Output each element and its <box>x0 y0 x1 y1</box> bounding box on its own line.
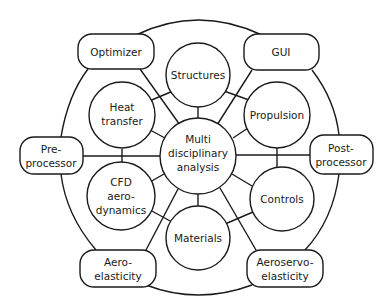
label-postprocessor-2: processor <box>315 156 367 168</box>
label-materials: Materials <box>174 232 222 244</box>
label-heat-1: Heat <box>110 101 135 113</box>
label-aeroelasticity-1: Aero- <box>104 256 132 268</box>
box-preprocessor: Pre- processor <box>20 137 83 174</box>
label-optimizer: Optimizer <box>90 46 142 58</box>
label-aeroservo-1: Aeroservo- <box>257 256 314 268</box>
box-optimizer: Optimizer <box>78 34 154 69</box>
label-mda-2: disciplinary <box>168 147 228 159</box>
label-controls: Controls <box>260 193 303 205</box>
circle-structures: Structures <box>166 43 230 107</box>
box-postprocessor: Post- processor <box>310 135 373 174</box>
label-aeroservo-2: elasticity <box>261 270 308 282</box>
label-cfd-2: aero- <box>107 190 135 202</box>
label-preprocessor-1: Pre- <box>41 143 62 155</box>
circle-controls: Controls <box>250 167 314 231</box>
label-gui: GUI <box>272 46 291 58</box>
circle-materials: Materials <box>166 206 230 270</box>
label-postprocessor-1: Post- <box>328 142 354 154</box>
label-preprocessor-2: processor <box>25 157 77 169</box>
label-structures: Structures <box>171 69 225 81</box>
circle-heat: Heat transfer <box>89 82 155 148</box>
box-gui: GUI <box>244 34 319 70</box>
label-mda-1: Multi <box>185 133 211 145</box>
mda-diagram: Optimizer GUI Post- processor Aeroservo-… <box>0 0 392 306</box>
circle-cfd: CFD aero- dynamics <box>87 162 155 230</box>
label-cfd-3: dynamics <box>96 204 146 216</box>
label-propulsion: Propulsion <box>250 109 304 121</box>
label-mda-3: analysis <box>177 161 220 173</box>
circle-propulsion: Propulsion <box>244 82 310 148</box>
label-heat-2: transfer <box>101 115 143 127</box>
box-aeroelasticity: Aero- elasticity <box>80 250 156 287</box>
circle-multidisciplinary-analysis: Multi disciplinary analysis <box>160 118 236 194</box>
label-cfd-1: CFD <box>110 176 131 188</box>
box-aeroservo: Aeroservo- elasticity <box>247 250 323 287</box>
label-aeroelasticity-2: elasticity <box>94 270 141 282</box>
